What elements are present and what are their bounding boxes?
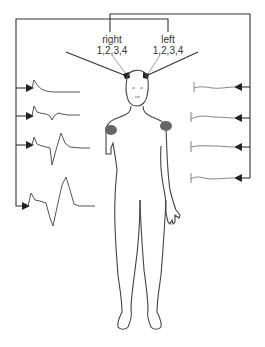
left-electrode-numbers: 1,2,3,4 — [148, 45, 188, 56]
right-branches — [234, 83, 250, 182]
right-trace-2 — [191, 112, 234, 122]
arrow-icon — [234, 83, 242, 91]
right-leg — [115, 200, 140, 329]
right-shoulder-stim-marker — [105, 125, 117, 135]
left-trace-1 — [32, 80, 80, 92]
arrow-icon — [234, 143, 242, 151]
left-hand — [166, 210, 180, 224]
left-shoulder-stim-marker — [160, 121, 172, 131]
left-trace-4 — [28, 177, 95, 226]
arrow-icon — [234, 114, 242, 122]
human-figure — [105, 70, 180, 329]
right-electrode-numbers: 1,2,3,4 — [92, 45, 132, 56]
torso-left-outline — [106, 106, 131, 200]
left-title: left — [148, 34, 188, 45]
right-electrode-label: right 1,2,3,4 — [92, 34, 132, 56]
right-trace-3 — [191, 141, 234, 152]
left-electrode-icon — [143, 72, 149, 79]
diagram-canvas — [0, 0, 265, 347]
left-trace-2 — [32, 106, 80, 120]
right-title: right — [92, 34, 132, 45]
right-trace-1 — [194, 82, 234, 92]
left-label-pointer — [148, 55, 160, 74]
left-trace-3 — [32, 133, 90, 165]
left-electrode-label: left 1,2,3,4 — [148, 34, 188, 56]
torso-right-outline — [143, 106, 176, 210]
right-trace-4 — [191, 173, 234, 183]
left-branches — [16, 84, 34, 210]
left-arm-inner — [161, 146, 166, 212]
left-leg — [140, 200, 166, 329]
arrow-icon — [234, 174, 242, 182]
